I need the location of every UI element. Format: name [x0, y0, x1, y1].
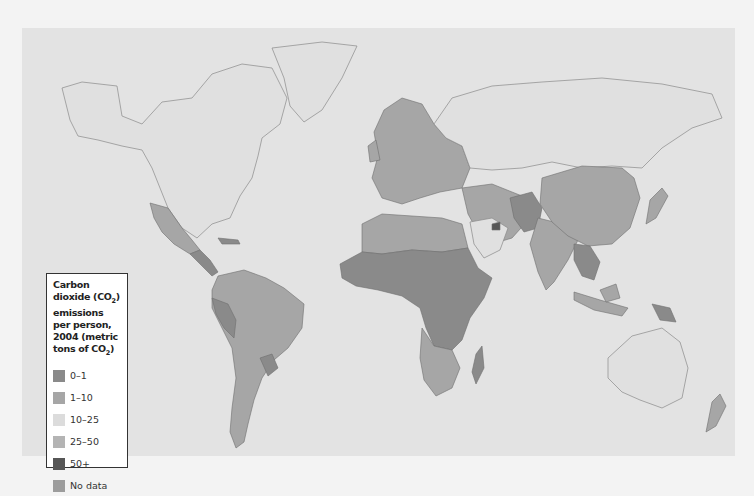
legend-swatch — [53, 414, 65, 426]
legend-title-text: ) — [110, 343, 114, 354]
legend-item-0-1: 0–1 — [53, 365, 123, 387]
choropleth-map — [22, 28, 735, 456]
legend-item-10-25: 10–25 — [53, 409, 123, 431]
region-north-america — [62, 64, 287, 238]
legend-title: Carbon dioxide (CO2) emissions per perso… — [53, 279, 123, 359]
region-sub-saharan-africa — [340, 248, 492, 350]
world-map: Carbon dioxide (CO2) emissions per perso… — [22, 28, 735, 456]
region-southeast-asia — [574, 244, 600, 280]
legend-label: 0–1 — [70, 370, 87, 381]
legend-label: 25–50 — [70, 436, 99, 447]
legend-swatch — [53, 370, 65, 382]
map-legend: Carbon dioxide (CO2) emissions per perso… — [46, 273, 128, 468]
legend-item-no-data: No data — [53, 475, 123, 496]
region-madagascar — [472, 346, 484, 384]
region-greenland — [272, 42, 357, 122]
region-indonesia — [574, 292, 628, 316]
legend-item-50-plus: 50+ — [53, 453, 123, 475]
region-russia — [434, 78, 722, 170]
legend-item-1-10: 1–10 — [53, 387, 123, 409]
legend-swatch — [53, 436, 65, 448]
region-japan — [646, 188, 668, 224]
legend-title-text: Carbon dioxide (CO — [53, 279, 112, 302]
legend-label: 10–25 — [70, 414, 99, 425]
region-caribbean — [218, 238, 240, 244]
region-borneo — [600, 284, 620, 302]
region-papua-new-guinea — [652, 304, 676, 322]
region-south-america — [212, 270, 304, 448]
legend-item-25-50: 25–50 — [53, 431, 123, 453]
region-australia — [608, 328, 688, 408]
region-north-africa — [362, 214, 468, 254]
region-central-america — [190, 250, 218, 276]
legend-swatch — [53, 392, 65, 404]
region-new-zealand — [706, 394, 726, 432]
legend-label: 1–10 — [70, 392, 93, 403]
legend-label: No data — [70, 480, 107, 491]
legend-swatch — [53, 480, 65, 492]
legend-swatch — [53, 458, 65, 470]
legend-label: 50+ — [70, 458, 90, 469]
